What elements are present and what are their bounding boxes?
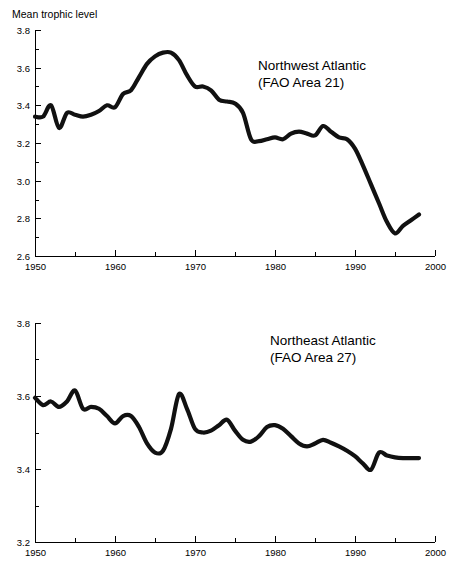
y-tick-label: 2.8	[17, 213, 30, 224]
panel-title: Northwest Atlantic	[258, 58, 366, 73]
panel-subtitle: (FAO Area 21)	[258, 75, 344, 90]
chart-svg: Mean trophic level2.62.83.03.23.43.63.81…	[0, 0, 457, 578]
x-tick-label: 1980	[265, 261, 286, 272]
panel-subtitle: (FAO Area 27)	[270, 350, 356, 365]
chart-panel-1: 2.62.83.03.23.43.63.81950196019701980199…	[17, 25, 446, 272]
x-tick-label: 1990	[345, 547, 366, 558]
y-axis-caption: Mean trophic level	[12, 8, 97, 20]
y-tick-label: 3.4	[17, 100, 30, 111]
x-tick-label: 1950	[25, 547, 46, 558]
x-tick-label: 1970	[185, 547, 206, 558]
axis-lines	[35, 30, 435, 256]
chart-panel-2: 3.23.43.63.8195019601970198019902000Nort…	[17, 318, 446, 558]
panel-title: Northeast Atlantic	[270, 333, 376, 348]
y-tick-label: 3.6	[17, 63, 30, 74]
x-tick-label: 1970	[185, 261, 206, 272]
data-series-line	[35, 52, 419, 234]
x-tick-label: 1980	[265, 547, 286, 558]
y-tick-label: 3.6	[17, 391, 30, 402]
x-tick-label: 1990	[345, 261, 366, 272]
y-tick-label: 3.2	[17, 138, 30, 149]
x-tick-label: 2000	[425, 261, 446, 272]
figure-container: Mean trophic level2.62.83.03.23.43.63.81…	[0, 0, 457, 578]
y-tick-label: 3.4	[17, 464, 30, 475]
y-tick-label: 3.0	[17, 176, 30, 187]
x-tick-label: 1950	[25, 261, 46, 272]
x-tick-label: 1960	[105, 547, 126, 558]
data-series-line	[35, 390, 419, 470]
x-tick-label: 2000	[425, 547, 446, 558]
y-tick-label: 3.8	[17, 318, 30, 329]
y-tick-label: 3.8	[17, 25, 30, 36]
x-tick-label: 1960	[105, 261, 126, 272]
